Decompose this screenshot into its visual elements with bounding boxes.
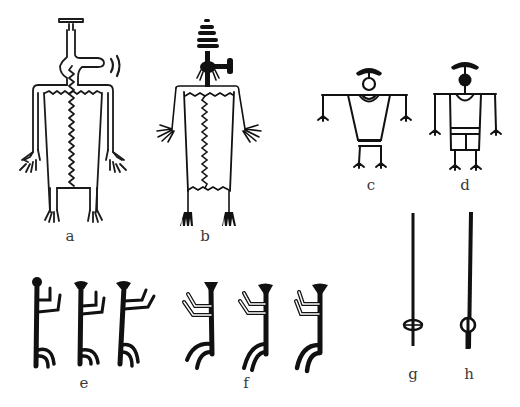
figure-h [461, 212, 475, 349]
panel-label-e: e [80, 376, 89, 391]
figure-f-1 [184, 282, 218, 368]
figure-a [20, 19, 126, 222]
panel-label-f: f [243, 376, 249, 391]
petroglyph-plate: a b c d e f g h [0, 0, 520, 407]
figure-f-2 [240, 284, 273, 371]
figure-f [184, 282, 328, 371]
figure-g [404, 213, 422, 346]
panel-label-b: b [200, 229, 210, 244]
figure-f-3 [296, 284, 328, 372]
figure-b [157, 19, 261, 226]
panel-label-d: d [460, 178, 470, 193]
figure-e-1 [32, 277, 60, 367]
figure-e-3 [116, 281, 154, 366]
panel-label-h: h [464, 367, 474, 382]
panel-label-c: c [367, 178, 375, 193]
figure-c [318, 68, 411, 168]
panel-label-g: g [408, 367, 418, 382]
plate-drawing [0, 0, 520, 407]
panel-label-a: a [66, 229, 75, 244]
figure-e [32, 277, 154, 367]
figure-d [430, 62, 501, 170]
figure-e-2 [74, 281, 104, 364]
